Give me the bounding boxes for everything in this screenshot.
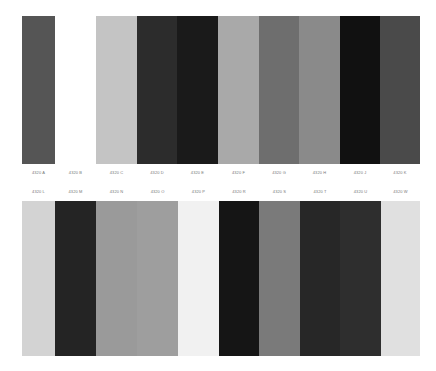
swatch-4320-u xyxy=(340,201,381,356)
label-4320-d: 4320 D xyxy=(137,170,177,175)
label-4320-a: 4320 A xyxy=(22,170,55,175)
swatch-4320-t xyxy=(300,201,340,356)
swatch-4320-g xyxy=(259,16,299,164)
label-4320-w: 4320 W xyxy=(381,189,420,194)
label-4320-k: 4320 K xyxy=(380,170,420,175)
swatch-4320-e xyxy=(177,16,218,164)
swatch-4320-d xyxy=(137,16,177,164)
swatch-4320-c xyxy=(96,16,137,164)
swatch-4320-j xyxy=(340,16,380,164)
swatch-4320-l xyxy=(22,201,55,356)
label-4320-t: 4320 T xyxy=(300,189,340,194)
label-4320-p: 4320 P xyxy=(178,189,219,194)
swatch-4320-a xyxy=(22,16,55,164)
swatch-4320-r xyxy=(219,201,259,356)
label-4320-m: 4320 M xyxy=(55,189,96,194)
swatch-4320-h xyxy=(299,16,340,164)
swatch-4320-m xyxy=(55,201,96,356)
swatch-4320-b xyxy=(55,16,96,164)
swatch-4320-w xyxy=(381,201,420,356)
label-4320-n: 4320 N xyxy=(96,189,137,194)
label-4320-b: 4320 B xyxy=(55,170,96,175)
top-swatch-row xyxy=(22,16,420,164)
swatch-4320-o xyxy=(137,201,178,356)
label-4320-l: 4320 L xyxy=(22,189,55,194)
label-4320-r: 4320 R xyxy=(219,189,259,194)
swatch-4320-p xyxy=(178,201,219,356)
swatch-4320-f xyxy=(218,16,259,164)
label-4320-o: 4320 O xyxy=(137,189,178,194)
swatch-4320-n xyxy=(96,201,137,356)
swatch-4320-k xyxy=(380,16,420,164)
label-4320-j: 4320 J xyxy=(340,170,380,175)
bottom-swatch-row xyxy=(22,201,420,356)
label-4320-e: 4320 E xyxy=(177,170,218,175)
label-4320-f: 4320 F xyxy=(218,170,259,175)
label-4320-c: 4320 C xyxy=(96,170,137,175)
label-4320-g: 4320 G xyxy=(259,170,299,175)
label-4320-u: 4320 U xyxy=(340,189,381,194)
label-4320-s: 4320 S xyxy=(259,189,300,194)
label-4320-h: 4320 H xyxy=(299,170,340,175)
top-label-row: 4320 A 4320 B 4320 C 4320 D 4320 E 4320 … xyxy=(22,170,420,175)
swatch-4320-s xyxy=(259,201,300,356)
bottom-label-row: 4320 L 4320 M 4320 N 4320 O 4320 P 4320 … xyxy=(22,189,420,194)
